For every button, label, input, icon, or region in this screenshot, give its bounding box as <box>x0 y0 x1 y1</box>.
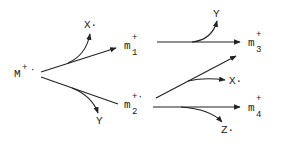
parent-ion-label: M + · <box>14 63 35 80</box>
m3-base: m <box>248 37 255 49</box>
line-parent-to-m2 <box>41 77 118 104</box>
fragmentation-diagram: M + · X· Y m 1 + m 2 +· Y m 3 + X· Z· m … <box>0 0 281 143</box>
m4-charge: + <box>256 94 261 104</box>
m1-charge: + <box>132 33 137 43</box>
arrow-loss-x-from-m2 <box>188 79 225 81</box>
m3-label: m 3 + <box>248 30 261 55</box>
parent-ion-charge: + <box>22 63 27 73</box>
m1-label: m 1 + <box>124 33 137 58</box>
m2-charge: +· <box>132 92 143 102</box>
neutral-z-label: Z· <box>221 124 234 136</box>
m1-subscript: 1 <box>132 48 137 58</box>
neutral-y-label-2: Y <box>213 8 220 20</box>
arrow-parent-to-m1 <box>41 48 116 72</box>
m1-base: m <box>124 40 131 52</box>
arrow-loss-y-from-m1 <box>192 21 217 42</box>
arrow-loss-y-from-parent <box>72 88 98 113</box>
parent-ion-radical: · <box>30 65 35 75</box>
m4-label: m 4 + <box>248 94 261 120</box>
parent-ion-base: M <box>14 68 21 80</box>
neutral-x-label-1: X· <box>84 19 97 31</box>
arrow-loss-x-from-parent <box>68 34 90 63</box>
m3-charge: + <box>256 30 261 40</box>
neutral-x-label-2: X· <box>229 75 242 87</box>
m2-subscript: 2 <box>132 107 137 117</box>
arrow-m2-diagonal <box>156 56 236 98</box>
arrow-loss-z-from-m2 <box>181 107 222 122</box>
m4-subscript: 4 <box>256 110 261 120</box>
m4-base: m <box>248 102 255 114</box>
m2-label: m 2 +· <box>124 92 143 117</box>
m2-base: m <box>124 99 131 111</box>
neutral-y-label-1: Y <box>96 115 103 127</box>
m3-subscript: 3 <box>256 45 261 55</box>
